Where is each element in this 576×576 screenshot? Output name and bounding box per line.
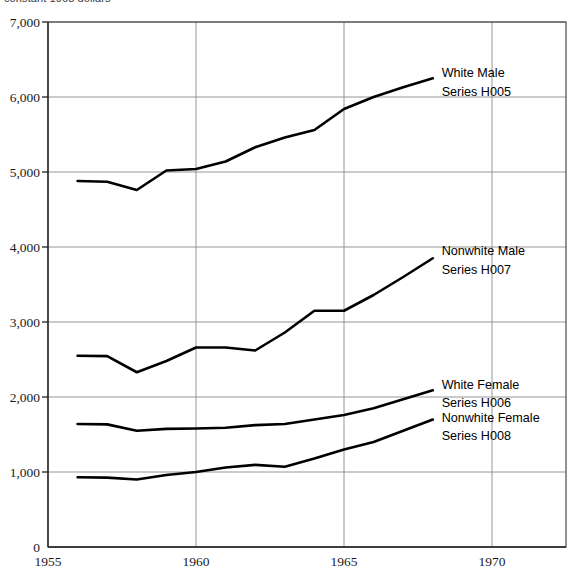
series-annotation-label: Series H005 bbox=[442, 85, 511, 99]
y-tick-label: 0 bbox=[33, 540, 40, 555]
series-annotation-label: Nonwhite Male bbox=[442, 244, 525, 258]
y-tick-label: 2,000 bbox=[10, 390, 41, 405]
series-annotations: White MaleSeries H005Nonwhite MaleSeries… bbox=[442, 66, 540, 443]
y-tick-label: 1,000 bbox=[10, 465, 41, 480]
series-line-series-h005 bbox=[78, 78, 433, 190]
plot-frame bbox=[48, 22, 566, 547]
series-line-series-h007 bbox=[78, 258, 433, 372]
x-axis-tick-labels: 1955196019651970 bbox=[35, 554, 506, 569]
series-annotation-label: Series H006 bbox=[442, 396, 511, 410]
y-tick-label: 4,000 bbox=[10, 240, 41, 255]
series-annotation-label: Series H008 bbox=[442, 429, 511, 443]
series-annotation-label: White Male bbox=[442, 66, 505, 80]
series-annotation-label: Series H007 bbox=[442, 263, 511, 277]
plot-border bbox=[48, 22, 566, 547]
chart-container: constant 1968 dollars 01,0002,0003,0004,… bbox=[0, 0, 576, 576]
y-tick-label: 6,000 bbox=[10, 90, 41, 105]
y-axis-tick-labels: 01,0002,0003,0004,0005,0006,0007,000 bbox=[10, 15, 48, 555]
series-annotation-label: White Female bbox=[442, 378, 520, 392]
gridlines bbox=[48, 22, 566, 547]
x-tick-label: 1965 bbox=[331, 554, 358, 569]
y-tick-label: 3,000 bbox=[10, 315, 41, 330]
data-series-group bbox=[78, 78, 433, 479]
line-chart: 01,0002,0003,0004,0005,0006,0007,000 195… bbox=[0, 0, 576, 576]
x-tick-label: 1970 bbox=[479, 554, 506, 569]
y-tick-label: 5,000 bbox=[10, 165, 41, 180]
series-line-series-h006 bbox=[78, 390, 433, 431]
y-tick-label: 7,000 bbox=[10, 15, 41, 30]
x-tick-label: 1960 bbox=[183, 554, 210, 569]
series-annotation-label: Nonwhite Female bbox=[442, 411, 540, 425]
x-tick-label: 1955 bbox=[35, 554, 62, 569]
